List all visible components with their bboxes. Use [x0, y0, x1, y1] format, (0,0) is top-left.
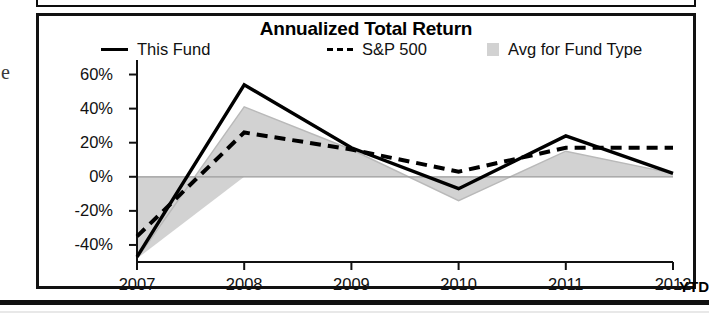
plot-area: 60% 40% 20% 0% -20% -40% 2007 2008 2009 … [39, 16, 693, 286]
x-tick-label-2009: 2009 [314, 276, 388, 293]
panel-above-bleed [36, 0, 696, 7]
y-tick-label-0: 60% [47, 66, 113, 83]
y-tick-label-4: -20% [47, 202, 113, 219]
x-tick-label-2007: 2007 [100, 276, 174, 293]
y-tick-label-3: 0% [47, 168, 113, 185]
ytd-label: YTD [679, 279, 709, 294]
figure-bottom-rule [0, 300, 709, 305]
y-tick-label-5: -40% [47, 236, 113, 253]
margin-text-glyph: e [1, 62, 10, 82]
area-negative-wedge [137, 177, 244, 259]
figure-bottom-rule-secondary [0, 311, 709, 313]
chart-figure: e Annualized Total Return This Fund S&P … [0, 0, 709, 317]
chart-card: Annualized Total Return This Fund S&P 50… [36, 13, 696, 289]
x-tick-label-2011: 2011 [529, 276, 603, 293]
x-tick-label-2010: 2010 [422, 276, 496, 293]
y-tick-label-1: 40% [47, 100, 113, 117]
x-tick-label-2008: 2008 [207, 276, 281, 293]
y-tick-label-2: 20% [47, 134, 113, 151]
plot-svg [39, 16, 693, 286]
